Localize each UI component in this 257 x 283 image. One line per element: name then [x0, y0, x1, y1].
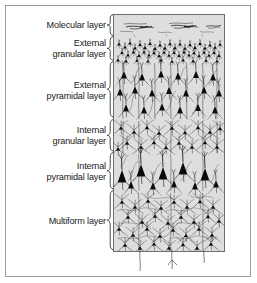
layer-label-external-granular: External granular layer — [10, 38, 106, 59]
layer-label-molecular: Molecular layer — [10, 20, 106, 31]
figure-root: Molecular layer External granular layer … — [0, 0, 257, 283]
layer-label-multiform: Multiform layer — [10, 216, 106, 227]
efferent-axon-fibers — [114, 251, 226, 277]
layer-label-internal-pyramidal: Internal pyramidal layer — [10, 161, 106, 182]
layer-label-external-pyramidal: External pyramidal layer — [10, 80, 106, 101]
layer-label-column: Molecular layer External granular layer … — [10, 14, 106, 254]
layer-label-internal-granular: Internal granular layer — [10, 125, 106, 146]
cortex-histology-panel — [113, 14, 225, 252]
cortex-neuron-drawing — [114, 15, 224, 251]
